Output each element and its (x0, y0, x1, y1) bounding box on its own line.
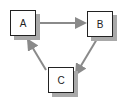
node-c-label: C (57, 75, 64, 86)
node-c[interactable]: C (48, 67, 74, 93)
node-a-label: A (20, 18, 27, 29)
node-b-label: B (97, 19, 104, 30)
node-b[interactable]: B (87, 11, 113, 37)
edge-b-to-c (76, 39, 97, 74)
node-a[interactable]: A (10, 10, 36, 36)
node-b-box: B (87, 11, 113, 37)
edge-c-to-a (28, 40, 46, 70)
node-c-box: C (48, 67, 74, 93)
node-a-box: A (10, 10, 36, 36)
